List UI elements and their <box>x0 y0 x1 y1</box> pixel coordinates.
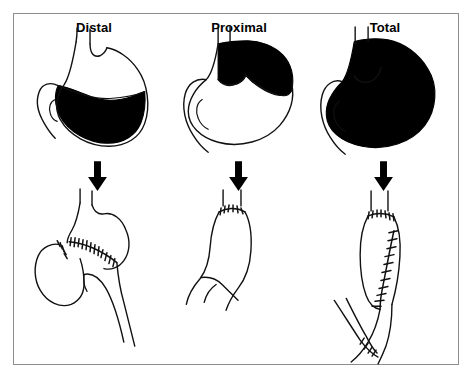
biliary-limb-inner <box>346 298 377 353</box>
gastrojejunal-anastomosis-line <box>69 242 117 263</box>
reconstruction-distal <box>35 189 135 346</box>
down-arrow-icon <box>88 161 107 191</box>
jejunojejunostomy-stitches <box>360 338 376 356</box>
pouch-longitudinal-suture-line <box>380 231 394 310</box>
distal-illustration <box>14 14 174 364</box>
gastrojejunal-suture-stitches <box>70 238 115 267</box>
esophagojejunal-suture-stitches <box>368 210 394 221</box>
gastric-remnant-outline <box>67 203 80 243</box>
stomach-distal-resection <box>38 28 148 146</box>
down-arrow-distal <box>88 161 107 191</box>
duodenum-inner-fold <box>334 102 346 132</box>
esophagojejunal-anastomosis-line <box>368 214 394 217</box>
duodenum-outline <box>201 277 238 300</box>
figure-border-frame: Distal <box>13 13 459 365</box>
down-arrow-icon <box>229 161 248 191</box>
resection-line <box>246 76 292 96</box>
duodenum-outline <box>38 84 59 139</box>
panel-title-total: Total <box>310 20 460 35</box>
shaded-region-fundus <box>218 41 293 96</box>
biliary-limb-outer <box>334 300 378 357</box>
resection-line <box>58 86 145 99</box>
panel-title-proximal: Proximal <box>164 20 314 35</box>
cardiac-notch <box>354 68 381 83</box>
gastric-remnant-left <box>186 212 219 304</box>
stomach-outline <box>188 44 292 145</box>
roux-limb-right <box>378 304 392 364</box>
lesser-curvature-notch <box>218 74 246 86</box>
gastric-remnant-right <box>92 205 129 269</box>
duodenal-stump-closure-stitches <box>57 241 67 259</box>
down-arrow-proximal <box>229 161 248 191</box>
shaded-region-whole-stomach <box>326 39 435 148</box>
panel-total: Total <box>310 14 460 364</box>
down-arrow-icon <box>374 161 393 191</box>
shaded-region-antrum <box>55 86 145 144</box>
jejunal-pouch-right-wall <box>392 217 400 305</box>
figure-root: Distal <box>0 0 474 380</box>
panel-title-distal: Distal <box>14 20 174 35</box>
jejunal-pouch-left-wall <box>360 216 380 309</box>
duodenum-inner-fold <box>197 100 209 130</box>
efferent-limb <box>117 263 135 347</box>
duodenum-outline <box>321 81 345 154</box>
stomach-outline <box>57 42 148 146</box>
jejunal-fold <box>84 275 87 292</box>
afferent-limb <box>84 274 124 342</box>
duodenal-stump-outline <box>35 244 84 305</box>
proximal-illustration <box>164 14 314 364</box>
pouch-longitudinal-stitches <box>372 231 398 307</box>
duodenum-outline <box>184 79 208 152</box>
panel-proximal: Proximal <box>164 14 314 364</box>
esophagogastric-anastomosis-line <box>219 209 245 212</box>
duodenum-inner-fold <box>49 100 57 122</box>
down-arrow-total <box>374 161 393 191</box>
stomach-proximal-resection <box>184 27 293 152</box>
stomach-total-resection <box>321 27 435 154</box>
reconstruction-total <box>334 191 400 364</box>
gastric-remnant-right <box>226 212 251 310</box>
roux-limb-left <box>351 309 380 362</box>
esophagogastric-suture-stitches <box>220 205 243 215</box>
duodenum-lower-limb <box>204 284 216 302</box>
reconstruction-proximal <box>186 190 251 310</box>
total-illustration <box>310 14 460 364</box>
cardiac-notch <box>90 44 107 56</box>
panel-distal: Distal <box>14 14 174 364</box>
